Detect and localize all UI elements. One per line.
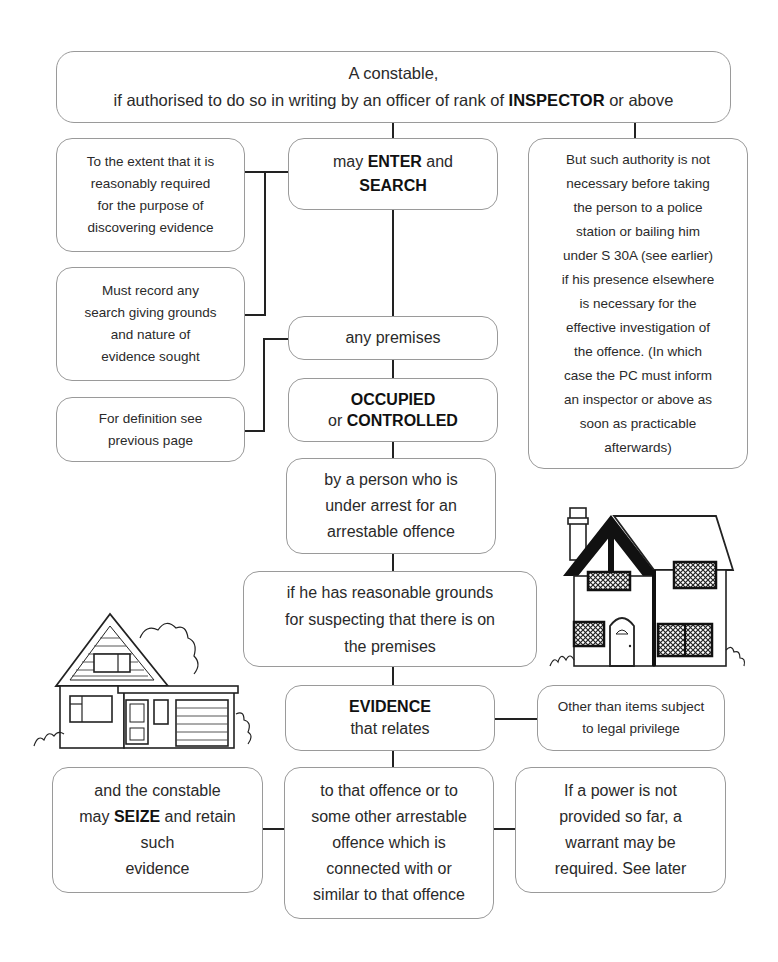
evidence-relates-box: EVIDENCE that relates (285, 685, 495, 751)
text-line: reasonably required (91, 173, 210, 195)
text-line: soon as practicable (580, 412, 696, 436)
connector-occupied-person (392, 441, 394, 458)
reasonable-grounds-box: if he has reasonable grounds for suspect… (243, 571, 537, 667)
warrant-required-box: If a power is not provided so far, a war… (515, 767, 726, 893)
text-line: case the PC must inform (564, 364, 712, 388)
text-line: But such authority is not (566, 148, 710, 172)
search-line: SEARCH (359, 174, 427, 198)
seize-evidence-box: and the constable may SEIZE and retain s… (52, 767, 263, 893)
connector-enter-premises (392, 208, 394, 316)
connector-extent (244, 171, 289, 173)
definition-box: For definition see previous page (56, 397, 245, 462)
text-line: an inspector or above as (564, 388, 712, 412)
connector-extent-record (264, 171, 266, 315)
occupied-controlled-box: OCCUPIED or CONTROLLED (288, 378, 498, 442)
connector-def-vertical (263, 338, 265, 432)
tudor-house-icon (548, 500, 748, 670)
text-line: connected with or (326, 856, 451, 882)
text-line: under arrest for an (325, 493, 457, 519)
text-line: Other than items subject (558, 696, 704, 718)
legal-privilege-box: Other than items subject to legal privil… (537, 685, 725, 751)
text-line: required. See later (555, 856, 687, 882)
connector-evidence-privilege (494, 718, 538, 720)
person-under-arrest-box: by a person who is under arrest for an a… (286, 458, 496, 554)
connector-definition (244, 430, 265, 432)
text-line: evidence (125, 856, 189, 882)
evidence-heading: EVIDENCE (349, 696, 431, 718)
bungalow-house-icon (30, 608, 260, 753)
text-line: some other arrestable (311, 804, 467, 830)
text-line: that relates (350, 718, 429, 740)
text-line: offence which is (332, 830, 446, 856)
text-line: afterwards) (604, 436, 672, 460)
premises-text: any premises (345, 326, 440, 350)
text-line: effective investigation of (566, 316, 710, 340)
text-line: such (141, 830, 175, 856)
text-line: and nature of (111, 324, 191, 346)
controlled-line: or CONTROLLED (328, 410, 458, 431)
text-line: warrant may be (565, 830, 675, 856)
text-line: arrestable offence (327, 519, 455, 545)
enter-line: may ENTER and (333, 150, 453, 174)
text-line: to that offence or to (320, 778, 458, 804)
connector-top-to-authority (634, 122, 636, 138)
text-line: is necessary for the (579, 292, 696, 316)
connector-premises-def (264, 338, 289, 340)
connector-grounds-evidence (392, 665, 394, 685)
text-line: by a person who is (324, 467, 457, 493)
connector-person-grounds (392, 553, 394, 572)
text-line: provided so far, a (559, 804, 682, 830)
text-line: the offence. (In which (574, 340, 702, 364)
text-line: discovering evidence (87, 217, 213, 239)
text-line: for suspecting that there is on (285, 606, 495, 633)
text-line: similar to that offence (313, 882, 465, 908)
connector-seize-offence (262, 828, 286, 830)
occupied-line: OCCUPIED (351, 389, 435, 410)
text-line: for the purpose of (98, 195, 204, 217)
any-premises-box: any premises (288, 316, 498, 360)
authority-not-necessary-box: But such authority is not necessary befo… (528, 138, 748, 469)
text-line: Must record any (102, 280, 199, 302)
text-line: under S 30A (see earlier) (563, 244, 713, 268)
connector-record (244, 314, 266, 316)
text-line: previous page (108, 430, 193, 452)
related-offence-box: to that offence or to some other arresta… (284, 767, 494, 919)
text-line: search giving grounds (84, 302, 216, 324)
text-line: station or bailing him (576, 220, 700, 244)
connector-top-to-enter (392, 122, 394, 138)
connector-offence-warrant (492, 828, 516, 830)
text-line: if he has reasonable grounds (287, 579, 493, 606)
text-line: if his presence elsewhere (562, 268, 714, 292)
enter-search-box: may ENTER and SEARCH (288, 138, 498, 210)
text-line: the premises (344, 633, 436, 660)
text-line: to legal privilege (582, 718, 680, 740)
text-line: To the extent that it is (87, 151, 215, 173)
text-line: necessary before taking (566, 172, 709, 196)
text-line: evidence sought (101, 346, 199, 368)
constable-authorisation-box: A constable, if authorised to do so in w… (56, 51, 731, 123)
text-line: For definition see (99, 408, 203, 430)
constable-label: A constable, (349, 60, 439, 87)
text-line: and the constable (94, 778, 220, 804)
text-line: If a power is not (564, 778, 677, 804)
inspector-authorisation-text: if authorised to do so in writing by an … (114, 87, 674, 114)
connector-evidence-offence (392, 750, 394, 768)
extent-required-box: To the extent that it is reasonably requ… (56, 138, 245, 252)
connector-premises-occupied (392, 358, 394, 378)
must-record-box: Must record any search giving grounds an… (56, 267, 245, 381)
text-line: the person to a police (573, 196, 702, 220)
seize-line: may SEIZE and retain (79, 804, 236, 830)
